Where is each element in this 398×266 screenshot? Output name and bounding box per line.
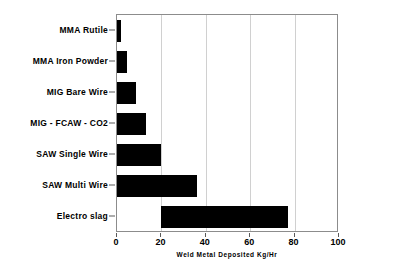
category-tick: [109, 29, 115, 30]
value-tick-label: 40: [200, 237, 210, 247]
category-axis: MMA RutileMMA Iron PowderMIG Bare WireMI…: [0, 14, 108, 232]
plot-area: [116, 14, 338, 232]
category-label: MMA Iron Powder: [0, 56, 108, 66]
value-tick-label: 0: [113, 237, 118, 247]
bar: [117, 113, 146, 135]
x-axis-title: Weld Metal Deposited Kg/Hr: [116, 251, 338, 258]
category-label: MIG Bare Wire: [0, 87, 108, 97]
value-tick-label: 60: [244, 237, 254, 247]
value-tick-label: 80: [289, 237, 299, 247]
bar: [161, 206, 288, 228]
category-tick: [109, 154, 115, 155]
category-label: SAW Single Wire: [0, 149, 108, 159]
category-label: SAW Multi Wire: [0, 180, 108, 190]
category-tick: [109, 185, 115, 186]
category-tick: [109, 216, 115, 217]
bar: [117, 175, 197, 197]
bar: [117, 82, 136, 104]
category-label: MIG - FCAW - CO2: [0, 118, 108, 128]
category-tick: [109, 91, 115, 92]
category-label: MMA Rutile: [0, 25, 108, 35]
bar: [117, 144, 161, 166]
value-tick-label: 100: [330, 237, 345, 247]
bar: [117, 51, 127, 73]
gridline: [161, 15, 162, 231]
category-tick: [109, 123, 115, 124]
value-tick-label: 20: [155, 237, 165, 247]
category-tick: [109, 60, 115, 61]
gridline: [206, 15, 207, 231]
gridline: [250, 15, 251, 231]
value-axis: 020406080100: [116, 233, 338, 249]
category-label: Electro slag: [0, 211, 108, 221]
gridline: [295, 15, 296, 231]
bar: [117, 20, 121, 42]
bar-chart: MMA RutileMMA Iron PowderMIG Bare WireMI…: [0, 0, 398, 266]
